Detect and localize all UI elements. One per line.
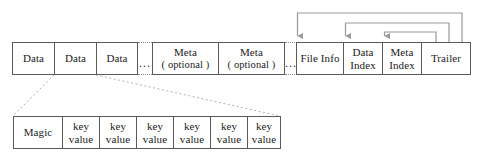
- detail-cell-keyvalue-1-line1: key: [73, 120, 89, 133]
- block-meta-index-line2: Index: [389, 59, 415, 72]
- connector-trailer-to-file-info: [298, 13, 463, 42]
- block-file-info-line1: File Info: [300, 52, 339, 65]
- detail-cell-keyvalue-6[interactable]: key value: [247, 116, 281, 149]
- block-meta-2-line1: Meta: [240, 46, 263, 59]
- detail-cell-keyvalue-6-line2: value: [252, 133, 276, 146]
- block-data-1[interactable]: Data: [12, 42, 55, 75]
- detail-cell-magic-line1: Magic: [24, 126, 53, 139]
- block-trailer[interactable]: Trailer: [421, 42, 471, 75]
- leader-line-left: [13, 75, 54, 116]
- block-meta-index-line1: Meta: [390, 46, 413, 59]
- block-meta-1-line2: ( optional ): [162, 59, 210, 71]
- block-data-3-label: Data: [106, 52, 127, 65]
- detail-cell-keyvalue-3-line1: key: [147, 120, 163, 133]
- block-data-2-label: Data: [65, 52, 86, 65]
- leader-line-right: [96, 75, 280, 116]
- block-meta-2[interactable]: Meta ( optional ): [218, 42, 285, 75]
- detail-cell-keyvalue-4-line1: key: [184, 120, 200, 133]
- detail-cell-keyvalue-2-line2: value: [106, 133, 130, 146]
- ellipsis-gap-data-meta-label: ...: [139, 56, 151, 71]
- block-data-index-line2: Index: [350, 59, 376, 72]
- block-data-index-line1: Data: [352, 46, 373, 59]
- detail-cell-keyvalue-3-line2: value: [143, 133, 167, 146]
- block-meta-1[interactable]: Meta ( optional ): [152, 42, 219, 75]
- detail-cell-keyvalue-2-line1: key: [110, 120, 126, 133]
- detail-cell-keyvalue-4-line2: value: [180, 133, 204, 146]
- detail-cell-keyvalue-3[interactable]: key value: [136, 116, 174, 149]
- block-meta-index[interactable]: Meta Index: [382, 42, 422, 75]
- block-data-1-label: Data: [23, 52, 44, 65]
- detail-cell-keyvalue-5-line2: value: [217, 133, 241, 146]
- detail-cell-keyvalue-5[interactable]: key value: [210, 116, 248, 149]
- connector-trailer-to-data-index: [346, 23, 450, 42]
- hfile-layout-diagram: Data Data Data ... Meta ( optional ) Met…: [0, 0, 481, 161]
- detail-cell-keyvalue-6-line1: key: [256, 120, 272, 133]
- detail-cell-magic[interactable]: Magic: [13, 116, 63, 149]
- detail-cell-keyvalue-5-line1: key: [221, 120, 237, 133]
- block-meta-2-line2: ( optional ): [228, 59, 276, 71]
- block-data-index[interactable]: Data Index: [343, 42, 383, 75]
- block-meta-1-line1: Meta: [174, 46, 197, 59]
- block-file-info[interactable]: File Info: [296, 42, 344, 75]
- detail-cell-keyvalue-1-line2: value: [69, 133, 93, 146]
- detail-cell-keyvalue-2[interactable]: key value: [99, 116, 137, 149]
- detail-cell-keyvalue-4[interactable]: key value: [173, 116, 211, 149]
- block-data-2[interactable]: Data: [54, 42, 97, 75]
- detail-cell-keyvalue-1[interactable]: key value: [62, 116, 100, 149]
- ellipsis-gap-data-meta: ...: [138, 42, 152, 75]
- block-trailer-line1: Trailer: [431, 52, 461, 65]
- connector-trailer-to-meta-index: [385, 32, 437, 42]
- block-data-3[interactable]: Data: [96, 42, 138, 75]
